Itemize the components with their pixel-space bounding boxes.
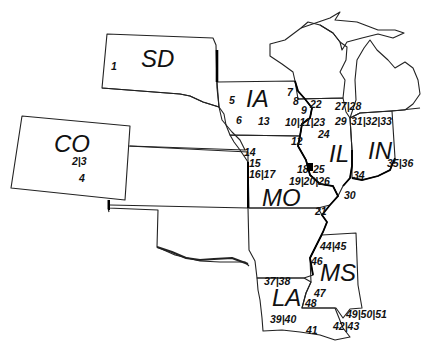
site-label: 13 <box>258 116 270 127</box>
site-label: 37|38 <box>264 276 290 287</box>
site-label: 34 <box>353 170 365 181</box>
site-label: 44|45 <box>320 241 346 252</box>
site-label: 24 <box>318 129 330 140</box>
site-label: 27|28 <box>335 101 361 112</box>
site-label: 7 <box>287 87 293 98</box>
site-label: 6 <box>236 115 242 126</box>
state-label-ia: IA <box>246 87 269 111</box>
site-label: 16|17 <box>249 169 275 180</box>
site-label: 10|11|23 <box>285 117 325 128</box>
site-label: 4 <box>79 173 85 184</box>
state-outline-oh <box>392 108 420 111</box>
site-label: 1 <box>111 61 117 72</box>
site-label: 2|3 <box>72 156 87 167</box>
site-label: 9 <box>301 105 307 116</box>
state-label-mo: MO <box>262 186 301 210</box>
site-label: 31|32|33 <box>351 116 392 127</box>
site-label: 14 <box>244 147 256 158</box>
state-outline-mi-up <box>301 12 404 50</box>
state-label-co: CO <box>54 132 90 156</box>
state-label-il: IL <box>329 142 349 166</box>
site-label: 46 <box>311 256 323 267</box>
site-label: 19|20|26 <box>289 176 330 187</box>
state-outline-ks <box>110 146 248 208</box>
site-label: 29 <box>335 116 347 127</box>
state-label-la: LA <box>272 286 301 310</box>
site-label: 15 <box>249 158 261 169</box>
state-label-ms: MS <box>320 261 356 285</box>
site-label: 39|40 <box>270 314 296 325</box>
state-label-sd: SD <box>141 47 174 71</box>
state-outline-co <box>11 116 130 200</box>
site-label: 5 <box>229 95 235 106</box>
map-outline <box>0 0 440 353</box>
site-label: 30 <box>344 190 356 201</box>
state-outline-ok <box>108 200 249 266</box>
state-outline-ne <box>102 88 245 150</box>
site-label: 35|36 <box>387 158 413 169</box>
site-label: 12 <box>291 136 303 147</box>
state-outline-ar <box>248 208 327 278</box>
site-label: 8 <box>293 96 299 107</box>
site-label: 22 <box>310 99 322 110</box>
site-label: 41 <box>306 325 318 336</box>
state-outline-wi <box>270 22 347 99</box>
site-label: 49|50|51 <box>346 309 387 320</box>
site-label: 42|43 <box>333 321 359 332</box>
site-label: 21 <box>315 206 327 217</box>
sampling-site-marker <box>307 163 313 171</box>
site-label: 48 <box>305 298 317 309</box>
site-label: 25 <box>313 164 325 175</box>
